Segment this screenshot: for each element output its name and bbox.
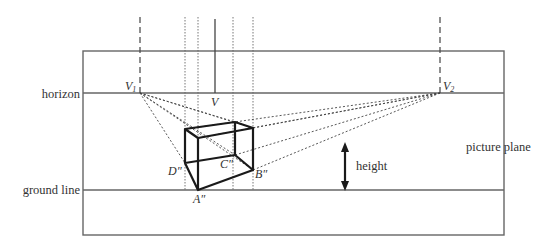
perspective-diagram: horizon ground line picture plane height… (0, 0, 558, 247)
horizon-label: horizon (42, 87, 81, 101)
picture-plane-frame (83, 51, 504, 235)
v-label: V (211, 95, 220, 109)
perspective-box (185, 122, 253, 190)
v2-label: V2 (443, 79, 454, 94)
ground-line-label: ground line (23, 183, 81, 197)
picture-plane-label: picture plane (466, 140, 531, 154)
v2-ray (253, 93, 440, 170)
frame-rect (83, 51, 504, 235)
c-label: C″ (220, 157, 234, 171)
projection-verticals (185, 17, 253, 190)
v1-ray (140, 93, 185, 163)
box-top-face (185, 122, 253, 138)
a-label: A″ (192, 192, 206, 206)
v1-label: V1 (125, 79, 136, 94)
d-label: D″ (167, 164, 183, 178)
box-bottom-face (185, 155, 253, 190)
v2-ray (253, 93, 440, 128)
arrow-up-icon (341, 142, 349, 152)
height-label: height (356, 159, 388, 173)
height-arrow (341, 142, 349, 191)
v2-ray (235, 93, 440, 155)
b-label: B″ (255, 167, 268, 181)
vanishing-point-verticals (140, 17, 440, 93)
